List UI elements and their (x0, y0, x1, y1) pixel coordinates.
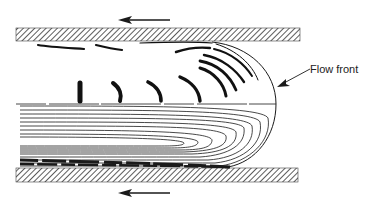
lower-streamlines (20, 106, 268, 166)
top-arrow-icon (118, 16, 170, 24)
upper-fountain-streaks (38, 42, 258, 101)
flow-front-leader-arrow-icon (277, 69, 310, 87)
bottom-wall (16, 168, 298, 182)
flow-front-label: Flow front (310, 63, 358, 75)
top-wall (16, 28, 300, 41)
bottom-arrow-icon (118, 189, 170, 197)
fountain-flow-diagram: Flow front (0, 0, 374, 203)
